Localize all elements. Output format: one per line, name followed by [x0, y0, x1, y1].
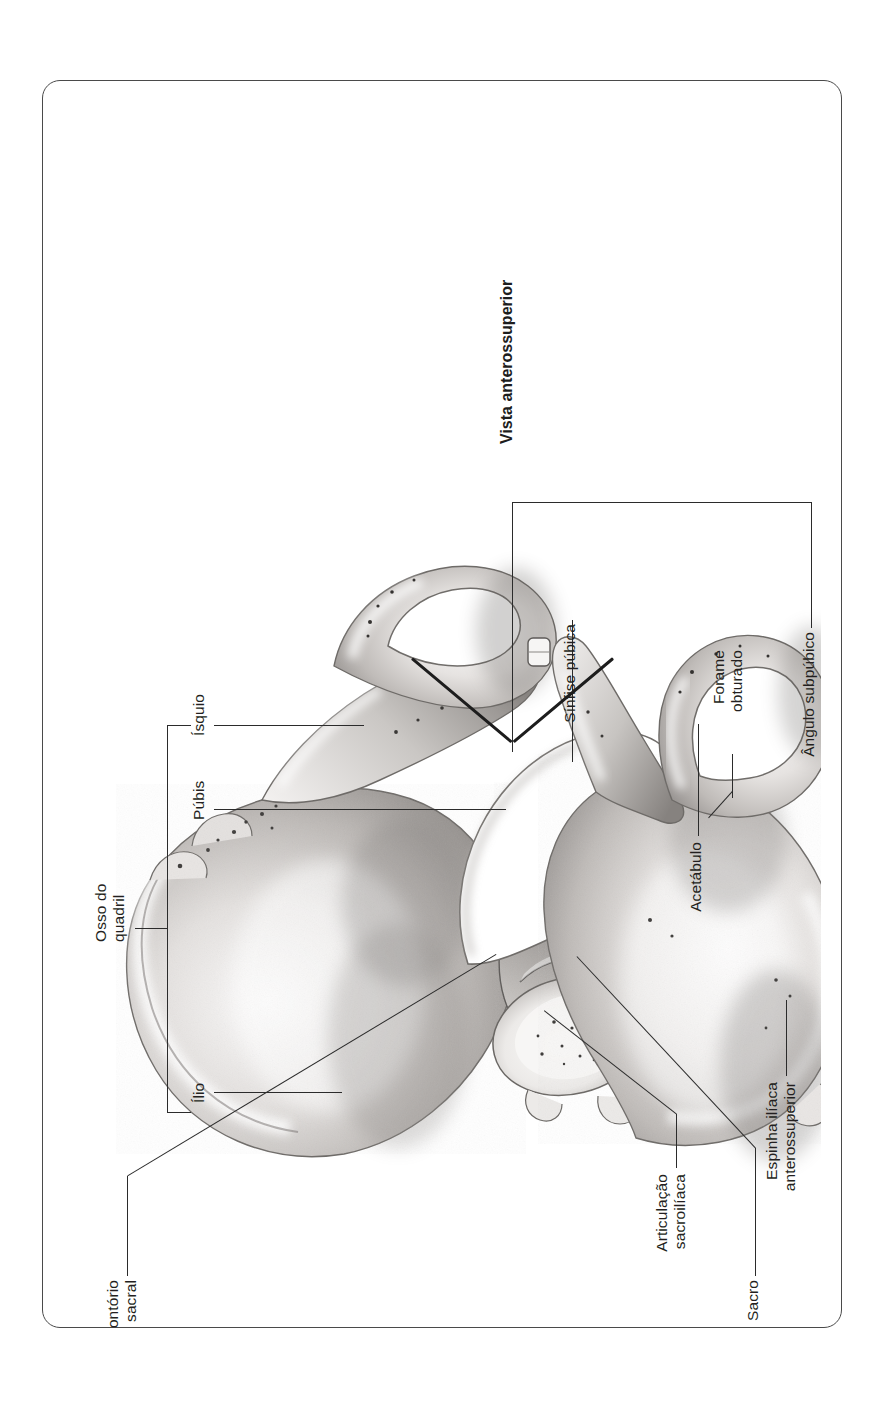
label-isquio: Ísquio: [190, 656, 208, 736]
leader-angulo-subpubico-drop: [512, 502, 812, 503]
label-sacro: Sacro: [744, 1280, 762, 1328]
leader-acetabulo: [698, 724, 699, 836]
label-articulacao-sacroiliaca: Articulação sacroilíaca: [653, 1174, 690, 1308]
bracket-osso-quadril-left-tick: [167, 1112, 191, 1113]
leader-isquio: [214, 725, 364, 726]
leader-promontorio-horizontal: [127, 1176, 128, 1276]
view-label: Vista anterossuperior: [498, 280, 516, 444]
bracket-osso-quadril-top: [167, 725, 168, 1113]
bracket-osso-quadril-stem: [135, 928, 167, 929]
label-sinfise-pubica: Sínfise púbica: [561, 624, 579, 740]
label-pubis: Púbis: [190, 740, 208, 820]
figure-page: Promontório sacral Osso do quadril Ílio …: [0, 0, 876, 1407]
label-promontorio-sacral: Promontório sacral: [104, 1280, 141, 1328]
pelvis-illustration: [76, 472, 821, 1232]
leader-angulo-subpubico: [512, 502, 513, 752]
figure-content-area: Promontório sacral Osso do quadril Ílio …: [42, 80, 842, 1328]
label-angulo-subpubico: Ângulo subpúbico: [800, 632, 818, 788]
pubic-symphysis: [528, 638, 550, 666]
label-espinha-iliaca-anterossuperior: Espinha ilíaca anterossuperior: [763, 1082, 800, 1218]
rotated-figure-canvas: Promontório sacral Osso do quadril Ílio …: [42, 80, 842, 1328]
label-forame-obturado: Forame obturado: [710, 650, 747, 742]
leader-sacro: [755, 1148, 756, 1276]
label-osso-do-quadril: Osso do quadril: [92, 812, 129, 942]
label-acetabulo: Acetábulo: [687, 842, 705, 940]
leader-pubis: [214, 809, 506, 810]
leader-ilio: [214, 1092, 342, 1093]
label-ilio: Ílio: [190, 1033, 208, 1103]
leader-articulacao-sacroiliaca: [676, 1114, 677, 1168]
leader-espinha-iliaca: [786, 1000, 787, 1076]
leader-angulo-subpubico-tail: [811, 502, 812, 628]
left-hip-bone: [116, 784, 526, 1157]
bracket-osso-quadril-right-tick: [167, 725, 191, 726]
